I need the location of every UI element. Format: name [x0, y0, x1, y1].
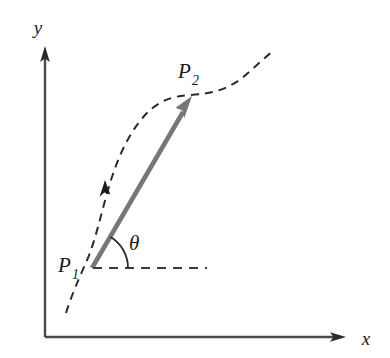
trajectory-curve-group: [66, 52, 272, 313]
trajectory-curve: [66, 52, 272, 313]
point-p2-label: P: [177, 59, 191, 83]
angle-theta-label: θ: [129, 231, 139, 255]
displacement-vector-group: [92, 96, 192, 268]
figure-canvas: y x P 1 P 2 θ: [0, 0, 390, 358]
angle-arc: [111, 237, 128, 268]
displacement-vector-arrowhead-icon: [176, 96, 193, 118]
point-p2-subscript: 2: [192, 73, 199, 88]
point-p1-subscript: 1: [72, 267, 79, 282]
vector-diagram: y x P 1 P 2 θ: [0, 0, 390, 358]
x-axis-label: x: [361, 328, 371, 349]
axes-group: [40, 46, 346, 342]
y-axis-label: y: [32, 17, 43, 38]
labels-group: y x P 1 P 2 θ: [32, 17, 371, 349]
point-p1-label: P: [57, 253, 71, 277]
